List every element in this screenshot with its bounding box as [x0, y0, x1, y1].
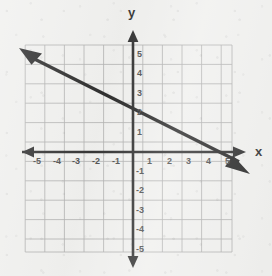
y-tick-label-2: 2 [137, 108, 142, 117]
y-tick-label-5: 5 [137, 50, 142, 59]
y-tick-label--2: -2 [136, 186, 144, 195]
x-tick-label--3: -3 [72, 157, 80, 166]
x-tick-label--4: -4 [53, 157, 61, 166]
coordinate-plane-figure: -5 -4 -3 -2 -1 1 2 3 4 5 5 4 3 2 1 -1 -2… [0, 0, 272, 276]
grid-lines [25, 45, 232, 252]
y-tick-label-1: 1 [137, 128, 142, 137]
x-tick-label--5: -5 [33, 157, 41, 166]
x-tick-label-5: 5 [225, 157, 230, 166]
y-tick-label-3: 3 [137, 89, 142, 98]
y-tick-label--4: -4 [136, 225, 144, 234]
x-axis-label: x [255, 145, 262, 158]
x-tick-label--2: -2 [92, 157, 100, 166]
graph-canvas [0, 0, 272, 276]
x-tick-label-4: 4 [206, 157, 211, 166]
y-tick-label--5: -5 [136, 245, 144, 254]
x-tick-label-1: 1 [147, 157, 152, 166]
y-axis-label: y [128, 6, 135, 19]
x-tick-label--1: -1 [112, 157, 120, 166]
x-tick-label-2: 2 [167, 157, 172, 166]
y-tick-label-4: 4 [137, 69, 142, 78]
y-tick-label--1: -1 [136, 167, 144, 176]
x-tick-label-3: 3 [186, 157, 191, 166]
y-tick-label--3: -3 [136, 206, 144, 215]
